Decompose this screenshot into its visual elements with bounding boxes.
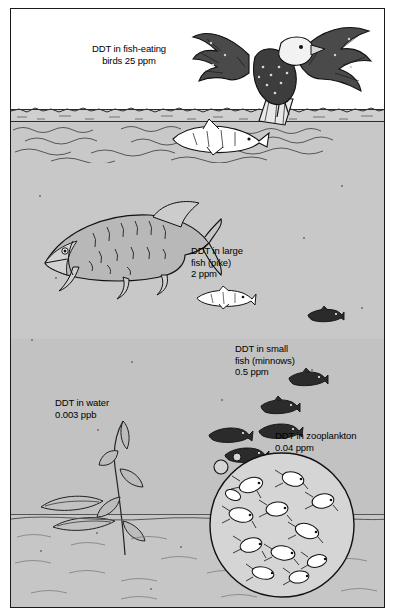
- water-speck: [361, 307, 363, 309]
- ddt-biomagnification-figure: DDT in fish-eating birds 25 ppm DDT in l…: [0, 0, 395, 616]
- water-speck: [131, 361, 133, 363]
- water-speck: [341, 185, 343, 187]
- ddt-in-large-fish-label: DDT in large fish (pike) 2 ppm: [191, 245, 291, 280]
- eagle-illustration: [189, 21, 379, 129]
- minnow-illustration: [257, 395, 301, 417]
- ddt-in-small-fish-label: DDT in small fish (minnows) 0.5 ppm: [235, 343, 345, 378]
- minnow-illustration: [305, 305, 345, 325]
- ddt-in-zooplankton-label: DDT in zooplankton 0.04 ppm: [275, 430, 383, 453]
- caught-fish-illustration: [163, 117, 273, 157]
- illustration-frame: DDT in fish-eating birds 25 ppm DDT in l…: [10, 8, 385, 608]
- water-speck: [303, 237, 305, 239]
- zooplankton-magnified-circle: [207, 449, 357, 601]
- ddt-in-birds-label: DDT in fish-eating birds 25 ppm: [73, 43, 185, 66]
- minnow-illustration: [193, 285, 257, 311]
- water-speck: [221, 399, 223, 401]
- ddt-in-water-label: DDT in water 0.003 ppb: [55, 397, 155, 420]
- water-speck: [31, 339, 33, 341]
